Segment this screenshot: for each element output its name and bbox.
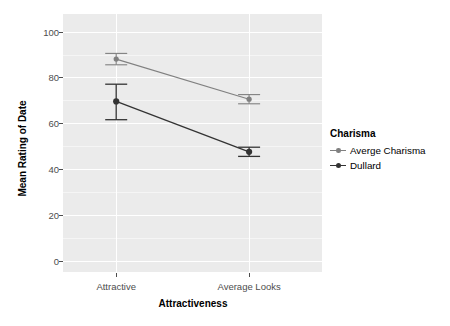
datapoint-dullard-average-looks bbox=[246, 149, 252, 155]
y-axis-tick-label-60: 60 bbox=[25, 118, 59, 129]
y-axis-tick-mark-60 bbox=[59, 123, 63, 124]
line-averge-charisma bbox=[116, 59, 249, 99]
datapoint-averge-average-looks bbox=[247, 97, 252, 102]
y-axis-tick-label-0: 0 bbox=[25, 255, 59, 266]
line-dullard bbox=[116, 101, 249, 151]
legend-item-averge-charisma[interactable]: Averge Charisma bbox=[330, 143, 448, 158]
legend: Charisma Averge Charisma Dullard bbox=[330, 128, 448, 173]
datapoint-averge-attractive bbox=[114, 57, 119, 62]
legend-label-dullard: Dullard bbox=[350, 160, 381, 171]
x-axis-tick-mark-average-looks bbox=[249, 273, 250, 277]
y-axis-tick-mark-0 bbox=[59, 261, 63, 262]
x-axis-tick-label-attractive: Attractive bbox=[96, 281, 136, 292]
y-axis-title: Mean Rating of Date bbox=[17, 69, 28, 229]
data-layer bbox=[63, 14, 322, 272]
y-axis-tick-mark-20 bbox=[59, 215, 63, 216]
y-axis-tick-mark-40 bbox=[59, 169, 63, 170]
legend-item-dullard[interactable]: Dullard bbox=[330, 158, 448, 173]
y-axis-tick-label-40: 40 bbox=[25, 164, 59, 175]
datapoint-dullard-attractive bbox=[113, 98, 119, 104]
legend-key-dullard-icon bbox=[330, 159, 346, 172]
y-axis-tick-label-100: 100 bbox=[25, 26, 59, 37]
x-axis-tick-mark-attractive bbox=[116, 273, 117, 277]
series-averge-charisma bbox=[105, 53, 260, 103]
y-axis-tick-label-20: 20 bbox=[25, 209, 59, 220]
legend-key-averge-charisma-icon bbox=[330, 144, 346, 157]
y-axis-tick-label-80: 80 bbox=[25, 72, 59, 83]
legend-label-averge-charisma: Averge Charisma bbox=[350, 145, 426, 156]
x-axis-title: Attractiveness bbox=[0, 298, 386, 309]
y-axis-tick-mark-100 bbox=[59, 32, 63, 33]
legend-title: Charisma bbox=[330, 128, 448, 139]
x-axis-tick-label-average-looks: Average Looks bbox=[217, 281, 280, 292]
y-axis-tick-mark-80 bbox=[59, 77, 63, 78]
chart-container: 0 20 40 60 80 100 Attractive Average Loo… bbox=[0, 0, 450, 326]
